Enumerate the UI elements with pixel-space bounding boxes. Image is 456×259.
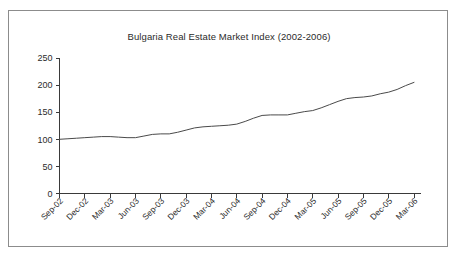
y-tick-label: 100 (37, 135, 52, 145)
x-tick-label: Dec-04 (267, 196, 293, 222)
x-tick-label: Mar-06 (394, 196, 420, 222)
x-tick-label: Dec-05 (368, 196, 394, 222)
line-chart-plot: 050100150200250 Sep-02Dec-02Mar-03Jun-03… (9, 11, 449, 248)
y-tick-label: 150 (37, 107, 52, 117)
y-axis-ticks: 050100150200250 (37, 53, 59, 199)
y-tick-label: 200 (37, 80, 52, 90)
x-tick-label: Sep-04 (241, 196, 267, 222)
x-tick-label: Mar-04 (191, 196, 217, 222)
x-tick-label: Jun-04 (217, 196, 242, 221)
x-tick-label: Mar-03 (90, 196, 116, 222)
x-tick-label: Dec-02 (64, 196, 90, 222)
x-tick-label: Dec-03 (165, 196, 191, 222)
x-tick-label: Jun-03 (116, 196, 141, 221)
x-tick-label: Sep-05 (343, 196, 369, 222)
figure-frame: Bulgaria Real Estate Market Index (2002-… (8, 10, 448, 247)
y-tick-label: 50 (42, 162, 52, 172)
x-tick-label: Sep-03 (140, 196, 166, 222)
chart-axes (60, 58, 422, 194)
x-tick-label: Sep-02 (39, 196, 65, 222)
figure-caption-partial (10, 250, 430, 259)
x-axis-ticks: Sep-02Dec-02Mar-03Jun-03Sep-03Dec-03Mar-… (39, 194, 420, 223)
x-tick-label: Jun-05 (318, 196, 343, 221)
x-tick-label: Mar-05 (292, 196, 318, 222)
data-series-line (60, 82, 415, 139)
y-tick-label: 0 (47, 189, 52, 199)
y-tick-label: 250 (37, 53, 52, 63)
